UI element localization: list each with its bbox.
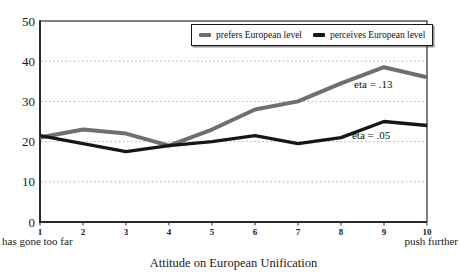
x-axis-min-label: has gone too far bbox=[2, 235, 73, 247]
prefers-line-swatch bbox=[199, 33, 211, 37]
eta-annotation-prefers: eta = .13 bbox=[328, 78, 418, 90]
x-axis-title: Attitude on European Unification bbox=[40, 256, 427, 271]
legend-entry-prefers: prefers European level bbox=[199, 30, 302, 40]
x-tick-label-5: 5 bbox=[202, 227, 222, 237]
legend-label-perceives: perceives European level bbox=[330, 30, 425, 40]
x-tick-label-7: 7 bbox=[288, 227, 308, 237]
legend: prefers European level perceives Europea… bbox=[191, 24, 433, 46]
legend-label-prefers: prefers European level bbox=[216, 30, 302, 40]
x-tick-label-4: 4 bbox=[159, 227, 179, 237]
eta-annotation-perceives: eta = .05 bbox=[326, 129, 416, 141]
perceives-line-swatch bbox=[313, 33, 325, 37]
line-chart: 01020304050 12345678910 has gone too far… bbox=[0, 0, 460, 278]
legend-entry-perceives: perceives European level bbox=[313, 30, 425, 40]
x-tick-label-3: 3 bbox=[116, 227, 136, 237]
y-tick-label-30: 30 bbox=[0, 94, 35, 109]
y-tick-label-10: 10 bbox=[0, 174, 35, 189]
y-tick-label-20: 20 bbox=[0, 134, 35, 149]
x-tick-label-6: 6 bbox=[245, 227, 265, 237]
y-tick-label-50: 50 bbox=[0, 14, 35, 29]
x-tick-label-8: 8 bbox=[331, 227, 351, 237]
x-tick-label-2: 2 bbox=[73, 227, 93, 237]
x-axis-max-label: push further bbox=[398, 235, 458, 247]
x-tick-label-9: 9 bbox=[374, 227, 394, 237]
y-tick-label-40: 40 bbox=[0, 54, 35, 69]
